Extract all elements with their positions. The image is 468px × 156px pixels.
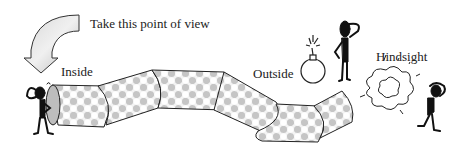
bomb-icon xyxy=(301,35,325,83)
tube-segment xyxy=(52,85,109,127)
stick-figure-hindsight-icon xyxy=(418,83,445,131)
take-pov-label: Take this point of view xyxy=(90,16,210,32)
outside-label: Outside xyxy=(253,66,293,82)
stick-figure-outside-icon xyxy=(335,21,359,81)
inside-label: Inside xyxy=(61,64,93,80)
hindsight-label: Hindsight xyxy=(376,49,427,65)
